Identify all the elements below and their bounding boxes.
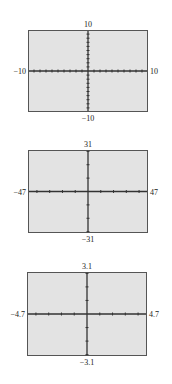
coordinate-axes <box>0 0 172 384</box>
